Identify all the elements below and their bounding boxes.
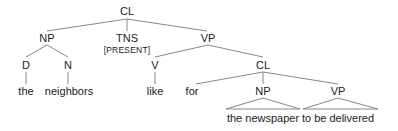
node-v: V — [151, 59, 158, 71]
node-vp-main: VP — [201, 32, 216, 44]
node-cl-embedded: CL — [256, 59, 270, 71]
node-tns: TNS — [116, 32, 138, 44]
tree-root-cl: CL — [120, 5, 134, 17]
tree-branch — [196, 72, 263, 84]
word-for: for — [186, 85, 199, 97]
tree-branch — [208, 45, 263, 57]
phrase-to-be-delivered: to be delivered — [302, 112, 374, 124]
node-np-subject: NP — [39, 32, 54, 44]
word-neighbors: neighbors — [45, 85, 93, 97]
node-vp-embedded: VP — [331, 85, 346, 97]
phrase-triangle — [303, 98, 378, 109]
node-n: N — [64, 59, 72, 71]
node-d: D — [22, 59, 30, 71]
phrase-triangle — [226, 98, 300, 109]
tree-branch — [47, 45, 68, 57]
word-like: like — [147, 85, 164, 97]
phrase-the-newspaper: the newspaper — [227, 112, 299, 124]
tree-branch — [47, 19, 127, 31]
tns-feature-present: [PRESENT] — [104, 44, 151, 56]
tree-branch — [155, 45, 208, 57]
tree-branch — [26, 45, 47, 57]
tree-branch — [263, 72, 338, 84]
tree-branch — [127, 19, 207, 31]
node-np-object: NP — [255, 85, 270, 97]
word-the: the — [18, 85, 33, 97]
